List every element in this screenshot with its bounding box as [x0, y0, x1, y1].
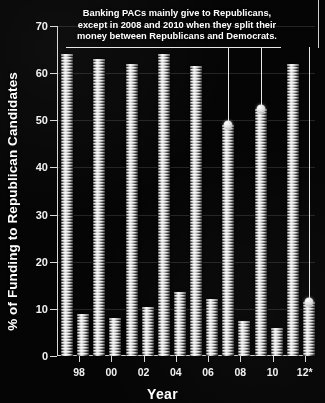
bar-republican-08 — [222, 125, 234, 356]
x-axis-tick-label: 04 — [170, 366, 182, 378]
y-axis-tick — [50, 167, 57, 168]
annotation-underline — [66, 47, 281, 48]
y-axis-tick — [50, 120, 57, 121]
callout-marker-10 — [256, 104, 265, 113]
y-axis-tick — [50, 309, 57, 310]
annotation-line-1: Banking PACs mainly give to Republicans, — [62, 8, 292, 20]
bar-republican-12 — [287, 64, 299, 356]
x-axis-tick-label: 08 — [234, 366, 246, 378]
bar-republican-00 — [93, 59, 105, 356]
y-axis-tick-label: 70 — [36, 20, 48, 32]
x-axis-tick — [240, 356, 241, 362]
bar-democratic-98 — [77, 314, 89, 356]
x-axis-tick — [176, 356, 177, 362]
annotation-line-2: except in 2008 and 2010 when they split … — [62, 20, 292, 32]
x-axis-tick — [208, 356, 209, 362]
x-axis-tick — [79, 356, 80, 362]
callout-leader-line-08 — [228, 47, 229, 125]
y-axis-tick-label: 30 — [36, 209, 48, 221]
callout-marker-12 — [304, 297, 313, 306]
x-axis-tick-label: 00 — [105, 366, 117, 378]
y-axis-tick — [50, 26, 57, 27]
x-axis-tick-label: 06 — [202, 366, 214, 378]
x-axis-tick — [305, 356, 306, 362]
x-axis-tick — [111, 356, 112, 362]
bar-republican-98 — [61, 54, 73, 356]
annotation-right-rule — [318, 0, 319, 48]
y-axis-title-text: % of Funding to Republican Candidates — [5, 72, 20, 331]
y-axis-tick-label: 40 — [36, 161, 48, 173]
y-axis-tick-label: 10 — [36, 303, 48, 315]
bar-democratic-04 — [174, 292, 186, 356]
annotation-line-3: money between Republicans and Democrats. — [62, 31, 292, 43]
annotation-text: Banking PACs mainly give to Republicans,… — [62, 8, 292, 43]
x-axis-tick-label: 10 — [267, 366, 279, 378]
bar-democratic-08 — [238, 321, 250, 356]
x-axis-tick-label: 12* — [297, 366, 313, 378]
y-axis-tick-label: 60 — [36, 67, 48, 79]
chart-container: % of Funding to Republican Candidates 01… — [0, 0, 325, 403]
x-axis-tick — [144, 356, 145, 362]
bar-republican-04 — [158, 54, 170, 356]
bar-republican-06 — [190, 66, 202, 356]
bar-democratic-06 — [206, 299, 218, 356]
bar-democratic-12 — [303, 302, 315, 356]
y-axis-line — [57, 26, 58, 356]
bar-democratic-00 — [109, 318, 121, 356]
plot-area: 010203040506070 9800020406081012* — [57, 26, 315, 356]
y-axis-tick-label: 20 — [36, 256, 48, 268]
y-axis-tick — [50, 262, 57, 263]
callout-leader-line-10 — [261, 47, 262, 109]
y-axis-tick-label: 0 — [42, 350, 48, 362]
callout-marker-08 — [224, 121, 233, 130]
bar-democratic-02 — [142, 307, 154, 357]
bar-republican-10 — [255, 109, 267, 357]
x-axis-tick — [273, 356, 274, 362]
x-axis-tick-label: 98 — [73, 366, 85, 378]
y-axis-tick-label: 50 — [36, 114, 48, 126]
x-axis-tick-label: 02 — [138, 366, 150, 378]
y-axis-tick — [50, 215, 57, 216]
callout-leader-line-12 — [309, 47, 310, 302]
x-axis-title: Year — [0, 386, 325, 402]
bar-democratic-10 — [271, 328, 283, 356]
y-axis-tick — [50, 356, 57, 357]
bar-republican-02 — [126, 64, 138, 356]
y-axis-title: % of Funding to Republican Candidates — [0, 0, 25, 403]
y-axis-tick — [50, 73, 57, 74]
